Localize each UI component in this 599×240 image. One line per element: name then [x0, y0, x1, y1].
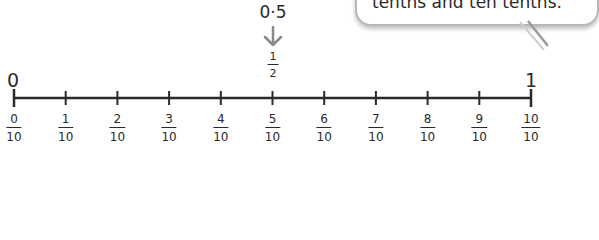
tick-denominator: 10 [317, 128, 332, 143]
tick-numerator: 10 [521, 113, 540, 128]
tick-label: 2 10 [110, 113, 125, 143]
tick-label: 8 10 [420, 113, 435, 143]
tick-denominator: 10 [6, 128, 21, 143]
tick-numerator: 0 [6, 113, 21, 128]
tick-denominator: 10 [161, 128, 176, 143]
tick-label: 1 10 [58, 113, 73, 143]
tick-numerator: 2 [110, 113, 125, 128]
tick-denominator: 10 [472, 128, 487, 143]
tick-denominator: 10 [58, 128, 73, 143]
tick-denominator: 10 [420, 128, 435, 143]
tick-numerator: 3 [161, 113, 176, 128]
tick-numerator: 7 [368, 113, 383, 128]
tick-label: 4 10 [213, 113, 228, 143]
tick-numerator: 1 [58, 113, 73, 128]
tick-numerator: 4 [213, 113, 228, 128]
tick-numerator: 6 [317, 113, 332, 128]
tick-label: 6 10 [317, 113, 332, 143]
tick-numerator: 5 [265, 113, 280, 128]
tick-numerator: 8 [420, 113, 435, 128]
tick-label: 7 10 [368, 113, 383, 143]
tick-denominator: 10 [521, 128, 540, 143]
tick-denominator: 10 [213, 128, 228, 143]
tick-denominator: 10 [368, 128, 383, 143]
tick-label: 3 10 [161, 113, 176, 143]
tick-denominator: 10 [110, 128, 125, 143]
tick-denominator: 10 [265, 128, 280, 143]
tick-numerator: 9 [472, 113, 487, 128]
tick-label: 5 10 [265, 113, 280, 143]
tick-label: 0 10 [6, 113, 21, 143]
tick-label: 10 10 [521, 113, 540, 143]
tick-label: 9 10 [472, 113, 487, 143]
